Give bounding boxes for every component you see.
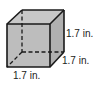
height-label: 1.7 in. — [66, 28, 93, 39]
depth-label: 1.7 in. — [62, 55, 89, 66]
cube-diagram: 1.7 in. 1.7 in. 1.7 in. — [0, 0, 102, 85]
width-label: 1.7 in. — [13, 70, 40, 81]
front-face — [7, 24, 50, 67]
